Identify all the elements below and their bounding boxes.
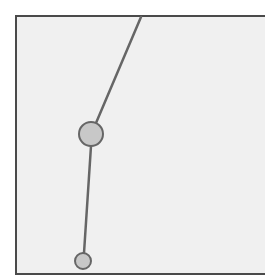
large-node [79, 122, 103, 146]
diagram-canvas [0, 0, 265, 279]
small-node [75, 253, 91, 269]
diagram-stage [0, 0, 265, 279]
diagram-frame [16, 16, 265, 274]
